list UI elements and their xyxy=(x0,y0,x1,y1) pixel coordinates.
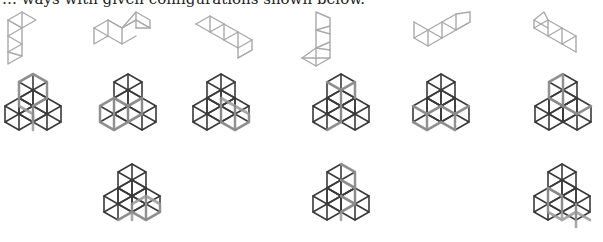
piece-5-figure xyxy=(410,8,480,54)
piece-1-figure xyxy=(2,8,44,68)
solution-5-figure xyxy=(411,72,475,138)
solution-9-figure xyxy=(532,162,596,228)
piece-2-figure xyxy=(90,8,154,48)
solution-6-figure xyxy=(533,72,597,138)
solution-4-figure xyxy=(311,72,375,138)
solution-3-figure xyxy=(191,72,255,138)
piece-4-figure xyxy=(296,8,338,70)
solution-2-figure xyxy=(98,72,162,138)
caption-text: … ways with given configurations shown b… xyxy=(2,0,602,7)
solution-8-figure xyxy=(311,162,375,228)
solution-1-figure xyxy=(3,72,67,138)
piece-3-figure xyxy=(192,8,256,62)
piece-6-figure xyxy=(530,8,590,58)
solution-7-figure xyxy=(102,162,166,228)
